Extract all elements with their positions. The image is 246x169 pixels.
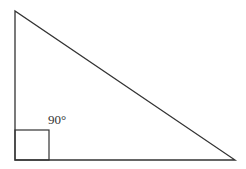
right-angle-marker <box>15 130 49 160</box>
triangle <box>15 11 235 160</box>
angle-label: 90° <box>48 112 66 127</box>
right-triangle-diagram: 90° <box>0 0 246 169</box>
